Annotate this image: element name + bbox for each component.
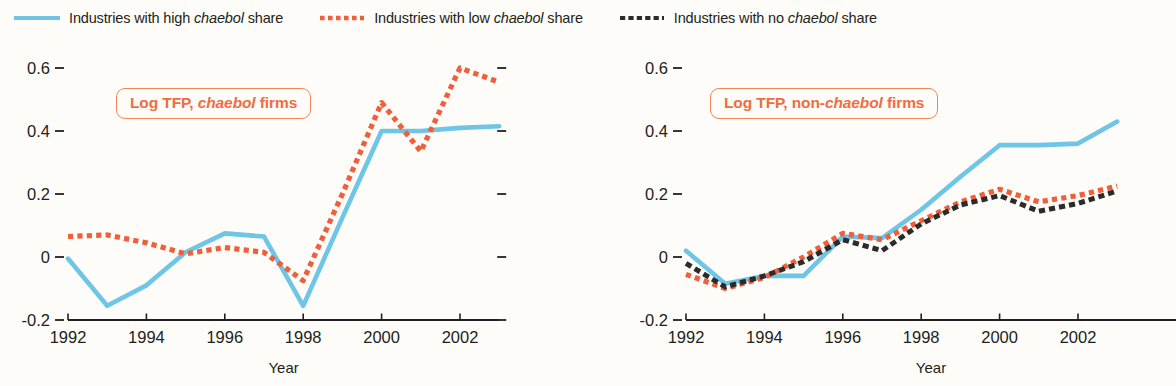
y-axis-tick-label: 0 [659, 248, 668, 266]
line-swatch-dotted-red-icon [319, 11, 365, 25]
x-axis-tick-label: 1998 [285, 328, 322, 346]
x-axis-tick-label: 2002 [442, 328, 479, 346]
annotation-pill-left-text: Log TFP, chaebol firms [130, 94, 297, 111]
legend-label-high-share: Industries with high chaebol share [69, 10, 283, 26]
x-axis-tick-label: 2002 [1060, 328, 1097, 346]
annotation-pill-right-text: Log TFP, non-chaebol firms [724, 94, 924, 111]
chart-panel-chaebol-firms: 1992199419961998200020020.60.40.20-0.2Ye… [0, 36, 600, 386]
x-axis-title: Year [268, 359, 298, 376]
y-axis-tick-label: -0.2 [640, 311, 668, 329]
legend-item-high-share: Industries with high chaebol share [14, 0, 283, 36]
y-axis-tick-label: 0.4 [27, 122, 50, 140]
x-axis-title: Year [916, 359, 946, 376]
x-axis-tick-label: 2000 [981, 328, 1018, 346]
x-axis-tick-label: 2000 [363, 328, 400, 346]
y-axis-tick-label: 0.4 [645, 122, 668, 140]
legend-label-no-share: Industries with no chaebol share [674, 10, 877, 26]
line-swatch-solid-blue-icon [14, 11, 60, 25]
x-axis-tick-label: 1992 [50, 328, 87, 346]
series-line-solid [68, 126, 499, 306]
x-axis-tick-label: 1996 [206, 328, 243, 346]
x-axis-tick-label: 1992 [668, 328, 705, 346]
x-axis-tick-label: 1996 [824, 328, 861, 346]
y-axis-tick-label: 0 [41, 248, 50, 266]
legend-item-no-share: Industries with no chaebol share [619, 0, 877, 36]
series-line-solid [686, 122, 1117, 284]
y-axis-tick-label: 0.6 [27, 59, 50, 77]
series-line-dashed [686, 191, 1117, 287]
chart-panel-non-chaebol-firms: 1992199419961998200020020.60.40.20-0.2Ye… [600, 36, 1176, 386]
y-axis-tick-label: -0.2 [22, 311, 50, 329]
x-axis-tick-label: 1994 [746, 328, 783, 346]
annotation-pill-right: Log TFP, non-chaebol firms [710, 88, 938, 119]
y-axis-tick-label: 0.6 [645, 59, 668, 77]
legend-label-low-share: Industries with low chaebol share [374, 10, 583, 26]
x-axis-tick-label: 1998 [903, 328, 940, 346]
annotation-pill-left: Log TFP, chaebol firms [116, 88, 311, 119]
chart-legend: Industries with high chaebol share Indus… [0, 0, 1176, 36]
y-axis-tick-label: 0.2 [645, 185, 668, 203]
y-axis-tick-label: 0.2 [27, 185, 50, 203]
line-swatch-dashed-black-icon [619, 11, 665, 25]
legend-item-low-share: Industries with low chaebol share [319, 0, 583, 36]
x-axis-tick-label: 1994 [128, 328, 165, 346]
